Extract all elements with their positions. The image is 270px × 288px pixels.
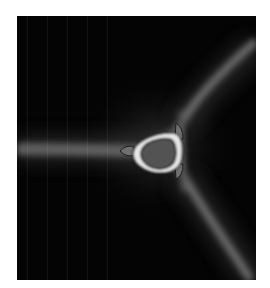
image-panel <box>17 16 256 280</box>
y-junction-figure <box>17 16 256 280</box>
